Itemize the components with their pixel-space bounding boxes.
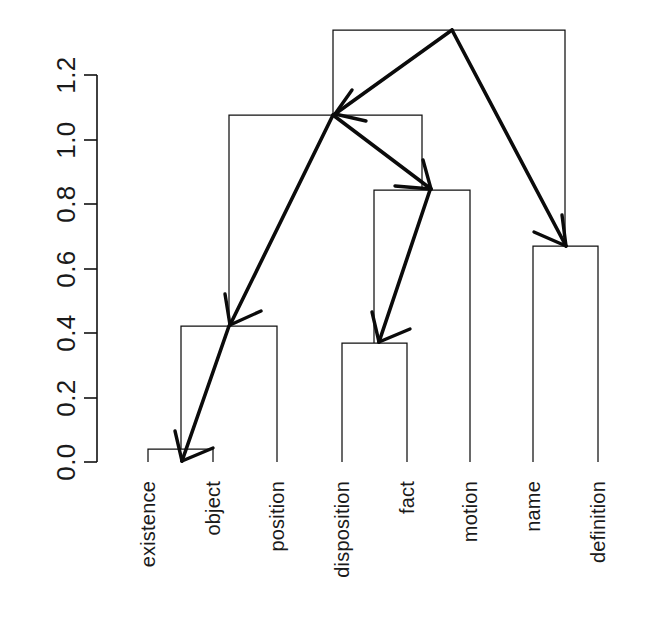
y-axis-ticks <box>84 75 97 462</box>
leaf-label-existence: existence <box>137 481 159 567</box>
leaf-label-position: position <box>266 481 288 552</box>
link-m3-motion <box>374 190 470 462</box>
arrow-root-to-m6 <box>452 30 566 246</box>
link-m2-m4 <box>229 115 422 326</box>
link-m5-m6 <box>333 30 565 246</box>
leaf-label-motion: motion <box>459 481 481 542</box>
y-tick-label-1.0: 1.0 <box>51 121 81 159</box>
link-name-definition <box>533 246 598 462</box>
y-tick-label-0.4: 0.4 <box>51 314 81 352</box>
y-tick-label-1.2: 1.2 <box>51 56 81 94</box>
arrow-head-m4-to-m3-a <box>372 312 379 342</box>
y-tick-label-0.6: 0.6 <box>51 250 81 288</box>
arrow-m5-to-m2 <box>230 115 333 325</box>
leaf-label-disposition: disposition <box>331 481 353 578</box>
plot-canvas: 1.2 1.0 0.8 0.6 0.4 0.2 0.0 <box>0 0 658 632</box>
leaf-label-fact: fact <box>396 481 418 514</box>
dendrogram-links <box>148 30 598 462</box>
link-m1-position <box>181 326 277 462</box>
y-tick-label-0.0: 0.0 <box>51 443 81 481</box>
arrow-m2-to-m1 <box>182 326 229 461</box>
leaf-label-definition: definition <box>587 481 609 563</box>
y-tick-label-0.2: 0.2 <box>51 379 81 417</box>
arrow-m4-to-m3 <box>379 190 430 342</box>
y-axis-tick-labels: 1.2 1.0 0.8 0.6 0.4 0.2 0.0 <box>51 56 81 481</box>
y-tick-label-0.8: 0.8 <box>51 185 81 223</box>
arrow-root-to-m5 <box>335 30 452 114</box>
y-axis: 1.2 1.0 0.8 0.6 0.4 0.2 0.0 <box>51 56 97 481</box>
dendrogram-figure: 1.2 1.0 0.8 0.6 0.4 0.2 0.0 <box>0 0 658 632</box>
traversal-arrows <box>175 30 566 461</box>
leaf-labels: existence object position disposition fa… <box>137 481 609 578</box>
leaf-label-object: object <box>202 481 224 536</box>
arrow-m5-to-m4 <box>333 115 431 189</box>
link-disposition-fact <box>342 343 407 462</box>
leaf-label-name: name <box>522 481 544 532</box>
